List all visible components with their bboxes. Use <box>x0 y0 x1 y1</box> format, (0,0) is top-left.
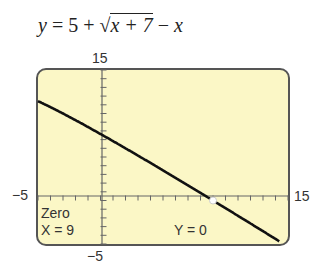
ymax-label: 15 <box>92 50 108 66</box>
x-ticks <box>38 196 288 201</box>
xmin-label: −5 <box>12 187 28 203</box>
xmax-label: 15 <box>294 188 310 204</box>
readout-x: X = 9 <box>41 222 74 238</box>
zero-cursor <box>210 197 217 204</box>
ymin-label: −5 <box>87 248 103 264</box>
y-ticks <box>101 70 107 244</box>
readout-y: Y = 0 <box>174 222 207 238</box>
readout-title: Zero <box>41 205 70 221</box>
screen-frame <box>37 69 289 245</box>
